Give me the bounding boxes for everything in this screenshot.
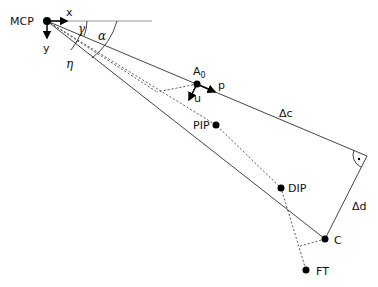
finger-joint-dashed-line	[47, 21, 306, 270]
mcp-point	[43, 17, 51, 25]
a0-point	[194, 81, 201, 88]
c-perpendicular-dashed	[300, 239, 325, 246]
delta-d-line	[325, 156, 367, 239]
delta-c-label: Δc	[279, 107, 293, 120]
ft-point	[303, 267, 310, 274]
c-point	[322, 236, 329, 243]
x-axis-label: x	[66, 6, 73, 19]
y-axis-label: y	[43, 42, 50, 55]
ft-label: FT	[316, 265, 329, 278]
delta-d-label: Δd	[352, 200, 367, 213]
alpha-label: α	[98, 29, 106, 43]
u-label: u	[194, 92, 201, 105]
right-angle-dot	[358, 158, 360, 160]
pip-point	[213, 122, 220, 129]
mcp-label: MCP	[10, 15, 34, 28]
finger-kinematics-diagram: MCP x y γ α η A0 p u PIP Δc DIP Δd C FT	[0, 0, 378, 287]
p-label: p	[218, 79, 225, 92]
c-label: C	[334, 234, 342, 247]
a0-perpendicular-dashed	[157, 84, 197, 92]
eta-label: η	[66, 57, 74, 71]
gamma-label: γ	[78, 22, 86, 36]
pip-label: PIP	[193, 119, 210, 132]
dip-label: DIP	[288, 182, 307, 195]
dip-point	[278, 185, 285, 192]
lower-boundary-line	[47, 21, 325, 239]
a0-label: A0	[193, 65, 206, 80]
